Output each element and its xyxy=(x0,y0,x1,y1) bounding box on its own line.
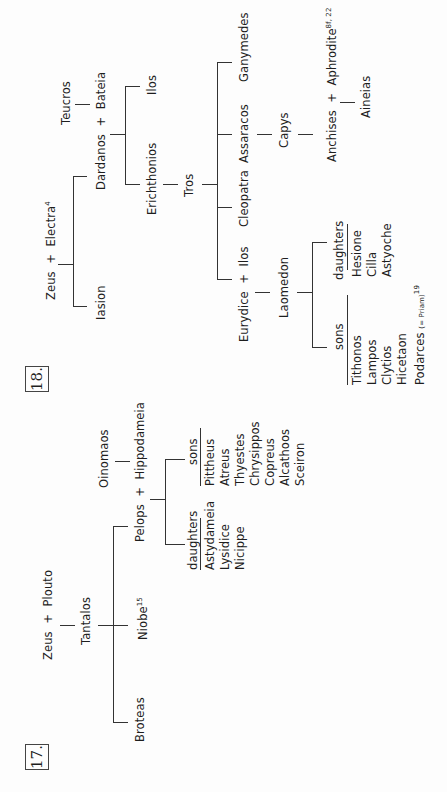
list-item: Sceiron xyxy=(293,421,308,486)
connector-line xyxy=(73,306,87,307)
ilos-name: Ilos xyxy=(146,75,159,95)
connector-line xyxy=(110,134,125,135)
list-item: Hicetaon xyxy=(395,285,410,385)
erichthonios-name: Erichthonios xyxy=(146,143,159,215)
plus-sign: + xyxy=(325,93,339,103)
connector-line xyxy=(297,292,312,293)
teucros-name: Teucros xyxy=(60,81,73,125)
connector-line xyxy=(113,722,128,723)
cleopatra-name: Cleopatra xyxy=(238,170,251,227)
connector-line xyxy=(98,625,113,626)
daughters-list: Astydameia Lysidice Nicippe xyxy=(203,501,248,570)
underline xyxy=(347,224,348,270)
footnote-ref: 4 xyxy=(44,201,52,206)
children-bar xyxy=(73,176,74,307)
plus-sign: + xyxy=(44,254,58,264)
list-item: Atreus xyxy=(218,421,233,486)
alias-note: (= Priam) xyxy=(418,294,426,328)
zeus-plouto-union: Zeus + Plouto xyxy=(42,570,55,660)
connector-line xyxy=(58,264,73,265)
connector-line xyxy=(165,544,185,545)
plus-sign: + xyxy=(94,117,108,127)
eurydice-ilos-union: Eurydice + Ilos xyxy=(238,246,251,342)
sons-list: Pittheus Atreus Thyestes Chrysippos Copr… xyxy=(203,421,308,486)
wife-name: Eurydice xyxy=(237,291,251,342)
plus-sign: + xyxy=(133,487,147,497)
husband-name: Ilos xyxy=(237,246,251,266)
father-name: Zeus xyxy=(44,271,58,300)
list-item: Astydameia xyxy=(203,501,218,570)
underline xyxy=(200,518,201,570)
connector-line xyxy=(255,292,270,293)
diagram-number: 17. xyxy=(25,744,49,770)
children-bar xyxy=(217,62,218,280)
connector-line xyxy=(113,625,128,626)
daughters-label: daughters xyxy=(333,221,346,280)
iasion-name: Iasion xyxy=(95,285,108,320)
connector-line xyxy=(165,459,185,460)
list-item: Copreus xyxy=(263,421,278,486)
sons-list: Tithonos Lampos Clytios Hicetaon Podarce… xyxy=(350,285,425,385)
capys-name: Capys xyxy=(278,112,291,148)
assaracos-name: Assaracos xyxy=(238,104,251,163)
dardanos-bateia-union: Dardanos + Bateia xyxy=(95,72,108,190)
tros-name: Tros xyxy=(183,174,196,197)
tantalos-name: Tantalos xyxy=(80,597,93,645)
children-bar xyxy=(125,86,126,185)
connector-line xyxy=(340,102,355,103)
sons-label: sons xyxy=(187,438,200,465)
list-item: Lysidice xyxy=(218,501,233,570)
connector-line xyxy=(312,347,327,348)
daughters-label: daughters xyxy=(187,511,200,570)
list-item: Chrysippos xyxy=(248,421,263,486)
connector-line xyxy=(73,176,87,177)
footnote-ref: 15 xyxy=(136,597,144,606)
connector-line xyxy=(217,207,232,208)
list-item: Nicippe xyxy=(233,501,248,570)
list-item: Lampos xyxy=(365,285,380,385)
list-item-podarces: Podarces (= Priam)19 xyxy=(410,285,425,385)
connector-line xyxy=(150,499,165,500)
sons-label: sons xyxy=(333,323,346,350)
husband-name: Anchises xyxy=(325,110,339,162)
plus-sign: + xyxy=(41,614,55,624)
connector-line xyxy=(298,134,313,135)
connector-line xyxy=(163,184,178,185)
footnote-ref: 8f, 22 xyxy=(325,8,333,29)
connector-line xyxy=(75,104,90,105)
connector-line xyxy=(125,184,140,185)
ganymedes-name: Ganymedes xyxy=(238,12,251,82)
husband-name: Dardanos xyxy=(94,134,108,190)
wife-name: Bateia xyxy=(94,72,108,109)
connector-line xyxy=(113,526,128,527)
connector-line xyxy=(217,279,232,280)
connector-line xyxy=(125,86,140,87)
anchises-aphrodite-union: Anchises + Aphrodite8f, 22 xyxy=(323,8,339,162)
mother-name: Plouto xyxy=(41,570,55,607)
list-item: Hesione xyxy=(350,223,365,277)
wife-name: Aphrodite xyxy=(325,28,339,85)
list-item: Cilla xyxy=(365,223,380,277)
oinomaos-name: Oinomaos xyxy=(98,429,111,488)
zeus-electra-union: Zeus + Electra4 xyxy=(42,201,58,300)
list-item: Pittheus xyxy=(203,421,218,486)
connector-line xyxy=(202,184,217,185)
plus-sign: + xyxy=(237,274,251,284)
father-name: Zeus xyxy=(41,631,55,660)
aineias-name: Aineias xyxy=(360,76,373,118)
husband-name: Pelops xyxy=(133,504,147,542)
list-item: Tithonos xyxy=(350,285,365,385)
children-bar xyxy=(165,459,166,545)
list-item: Alcathoos xyxy=(278,421,293,486)
list-item: Thyestes xyxy=(233,421,248,486)
connector-line xyxy=(217,62,232,63)
connector-line xyxy=(217,134,232,135)
children-bar xyxy=(312,242,313,348)
mother-name: Electra xyxy=(44,206,58,247)
diagram-number: 18. xyxy=(25,366,49,392)
laomedon-name: Laomedon xyxy=(278,257,291,318)
footnote-ref: 19 xyxy=(413,285,421,294)
niobe-name: Niobe15 xyxy=(134,597,150,640)
wife-name: Hippodameia xyxy=(133,402,147,479)
genealogy-page: 17. Zeus + Plouto Tantalos Broteas Niobe… xyxy=(0,0,447,792)
